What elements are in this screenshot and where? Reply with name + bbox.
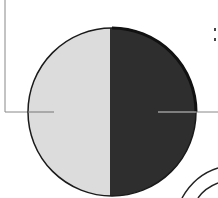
sphere [0,0,218,198]
label-mark [214,38,216,41]
label-mark [214,28,216,31]
outer-arc [182,168,218,198]
sphere-diagram [0,0,218,198]
inner-arc [198,183,218,198]
